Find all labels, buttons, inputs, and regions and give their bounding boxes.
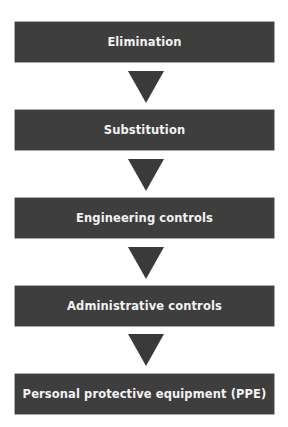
down-arrow-icon [128,159,164,191]
step-label-substitution: Substitution [104,123,185,137]
step-box-ppe: Personal protective equipment (PPE) [15,374,274,414]
step-label-ppe: Personal protective equipment (PPE) [23,387,267,401]
step-box-engineering-controls: Engineering controls [15,198,274,238]
down-arrow-icon [128,71,164,103]
down-arrow-icon [128,247,164,279]
down-arrow-icon [128,334,164,366]
step-label-engineering-controls: Engineering controls [76,211,213,225]
step-label-elimination: Elimination [107,35,181,49]
step-box-substitution: Substitution [15,110,274,150]
hierarchy-of-controls-diagram: Elimination Substitution Engineering con… [0,0,288,427]
step-box-elimination: Elimination [15,22,274,62]
step-label-administrative-controls: Administrative controls [67,299,222,313]
step-box-administrative-controls: Administrative controls [15,286,274,326]
